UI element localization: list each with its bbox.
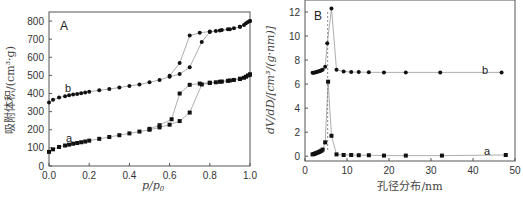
data-point [178,61,182,65]
data-point [97,137,101,141]
data-point [63,94,67,98]
series-label-a-a: a [66,132,73,144]
data-point [79,140,83,144]
data-point [232,26,236,30]
data-point [127,131,131,135]
data-point [382,154,386,158]
data-point [117,133,121,137]
data-point [208,81,212,85]
y-tick-label: 0 [294,151,300,162]
data-point [357,153,361,157]
data-point [87,90,91,94]
series-lines-a [49,21,250,152]
data-point [57,145,61,149]
data-point [248,19,252,23]
data-point [248,73,252,77]
series-line [170,21,250,76]
y-tick-label: 600 [27,52,44,63]
series-markers-a [47,19,252,154]
data-point [349,153,353,157]
data-point [83,91,87,95]
axis-ticks-a: 0.00.20.40.60.81.00100200300400500600700… [27,16,257,181]
data-point [238,77,242,81]
data-point [335,152,339,156]
plot-frame-b [305,0,515,161]
data-point [63,144,67,148]
x-tick-label: 10 [341,165,353,176]
y-tick-label: 500 [27,70,44,81]
data-point [438,70,442,74]
data-point [158,78,162,82]
data-point [208,30,212,34]
data-point [158,123,162,127]
data-point [148,127,152,131]
pore-size-chart-b: 01020304050024681012 B a b 孔径分布/nm dV/dD… [264,0,521,193]
series-line [313,82,506,156]
series-label-b-a: a [484,145,491,157]
data-point [325,41,329,45]
data-point [117,86,121,90]
x-tick-label: 40 [467,165,479,176]
data-point [440,154,444,158]
x-tick-label: 30 [425,165,437,176]
data-point [51,147,55,151]
data-point [107,87,111,91]
x-tick-label: 0.0 [42,170,56,181]
data-point [342,153,346,157]
data-point [170,117,174,121]
y-tick-label: 100 [27,142,44,153]
data-point [178,92,182,96]
data-point [323,65,327,69]
y-axis-label-b: dV/dD/[cm³/(g·nm)] [264,25,277,134]
data-point [228,78,232,82]
data-point [382,70,386,74]
panel-label-b: B [314,9,322,23]
data-point [198,31,202,35]
data-point [218,80,222,84]
series-line [49,21,250,103]
y-tick-label: 0 [38,161,44,172]
y-tick-label: 2 [294,127,300,138]
x-tick-label: 0.6 [163,170,177,181]
data-point [218,28,222,32]
y-tick-label: 4 [294,103,300,114]
data-point [188,34,192,38]
data-point [214,29,218,33]
y-tick-label: 400 [27,88,44,99]
data-point [75,92,79,96]
data-point [168,74,172,78]
data-point [178,72,182,76]
data-point [367,153,371,157]
x-tick-label: 1.0 [243,170,257,181]
series-markers-b [311,6,508,157]
series-line [49,75,250,152]
data-point [47,150,51,154]
data-point [79,91,83,95]
data-point [200,40,204,44]
y-tick-label: 8 [294,55,300,66]
x-tick-label: 50 [509,165,521,176]
data-point [329,134,333,138]
data-point [504,153,508,157]
data-point [57,96,61,100]
data-point [127,84,131,88]
data-point [357,70,361,74]
x-axis-label-b: 孔径分布/nm [377,180,443,193]
data-point [326,80,330,84]
data-point [228,27,232,31]
data-point [188,83,192,87]
data-point [83,140,87,144]
x-axis-label-a: p/p0 [142,179,165,193]
data-point [323,140,327,144]
data-point [329,6,333,10]
data-point [198,82,202,86]
data-point [178,119,182,123]
data-point [107,135,111,139]
data-point [137,82,141,86]
data-point [214,80,218,84]
series-label-a-b: b [65,82,71,94]
data-point [87,139,91,143]
data-point [188,65,192,69]
data-point [47,101,51,105]
y-tick-label: 300 [27,106,44,117]
